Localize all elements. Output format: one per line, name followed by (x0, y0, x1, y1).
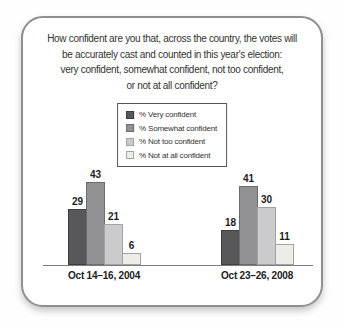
chart-card-inner: How confident are you that, across the c… (23, 18, 321, 305)
bar-2004-series-4 (122, 253, 141, 265)
x-axis-label-2008: Oct 23–26, 2008 (221, 270, 293, 281)
bar-2004-series-3 (104, 224, 123, 265)
page-background: How confident are you that, across the c… (0, 0, 344, 328)
bar-value-label: 18 (221, 217, 240, 228)
bar-value-label: 43 (86, 169, 105, 180)
chart-card: How confident are you that, across the c… (21, 16, 323, 307)
bar-2008-series-3 (257, 207, 276, 265)
bar-2008-series-1 (221, 230, 240, 265)
x-axis-line (43, 265, 313, 266)
bar-value-label: 41 (239, 173, 258, 184)
x-axis-label-2004: Oct 14–16, 2004 (68, 270, 140, 281)
bar-2004-series-1 (68, 209, 87, 265)
plot-area: Oct 14–16, 2004 Oct 23–26, 2008 29432161… (23, 18, 321, 305)
bar-value-label: 6 (122, 240, 141, 251)
bar-value-label: 29 (68, 196, 87, 207)
bar-value-label: 30 (257, 194, 276, 205)
bar-2008-series-4 (275, 244, 294, 265)
bar-value-label: 11 (275, 231, 294, 242)
bar-value-label: 21 (104, 211, 123, 222)
bar-2004-series-2 (86, 182, 105, 265)
bar-2008-series-2 (239, 186, 258, 265)
